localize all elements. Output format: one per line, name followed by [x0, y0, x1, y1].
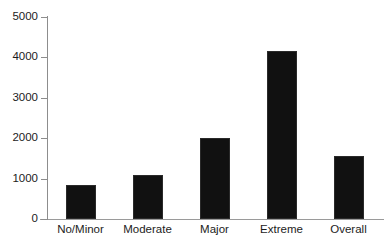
- x-tick-label: Extreme: [248, 224, 315, 236]
- x-tick-label: No/Minor: [47, 224, 114, 236]
- bar: [334, 156, 364, 219]
- y-tick-mark: [41, 219, 48, 220]
- x-tick-label: Moderate: [114, 224, 181, 236]
- bar: [267, 51, 297, 219]
- bar-chart-figure: 010002000300040005000 No/MinorModerateMa…: [0, 0, 388, 247]
- x-tick-label: Overall: [315, 224, 382, 236]
- y-tick-label: 3000: [2, 92, 38, 104]
- x-axis-line: [40, 219, 384, 220]
- plot-area: [47, 17, 382, 219]
- bar: [200, 138, 230, 219]
- y-tick-label: 2000: [2, 132, 38, 144]
- x-tick-label: Major: [181, 224, 248, 236]
- bar: [66, 185, 96, 219]
- y-tick-label: 5000: [2, 11, 38, 23]
- y-tick-label: 4000: [2, 51, 38, 63]
- y-tick-label: 1000: [2, 173, 38, 185]
- y-tick-label: 0: [2, 213, 38, 225]
- bar: [133, 175, 163, 219]
